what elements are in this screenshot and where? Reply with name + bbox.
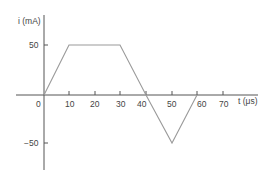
x-tick-70: 70	[219, 99, 229, 109]
y-tick-50: 50	[29, 40, 39, 50]
x-tick-60: 60	[197, 99, 207, 109]
current-waveform-chart: i (mA) 50 −50 0 10 20 30 40 50 60 70 t (…	[0, 0, 271, 177]
x-tick-40: 40	[137, 99, 147, 109]
x-tick-0: 0	[36, 99, 41, 109]
x-tick-10: 10	[65, 99, 75, 109]
y-tick-neg50: −50	[24, 138, 39, 148]
y-axis-label: i (mA)	[18, 16, 41, 26]
x-tick-50: 50	[167, 99, 177, 109]
x-axis-label: t (μs)	[238, 96, 258, 106]
x-tick-20: 20	[90, 99, 100, 109]
x-tick-30: 30	[116, 99, 126, 109]
